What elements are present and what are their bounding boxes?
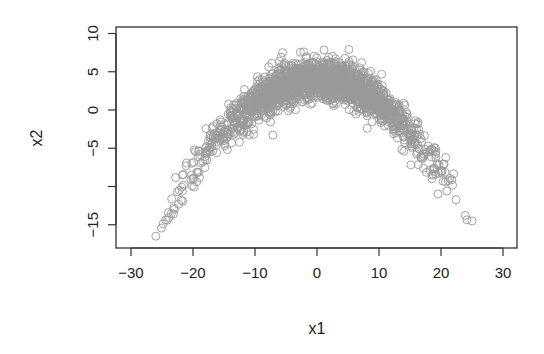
data-points [152, 46, 476, 241]
y-tick-label: 5 [84, 68, 101, 76]
data-point [180, 181, 188, 189]
data-point [468, 217, 476, 225]
y-tick-label: 0 [84, 106, 101, 114]
data-point [363, 124, 371, 132]
data-point [320, 46, 328, 54]
data-point [345, 46, 353, 54]
data-point [152, 232, 160, 240]
data-point [407, 161, 415, 169]
data-point [443, 187, 451, 195]
data-point [463, 216, 471, 224]
data-point [172, 174, 180, 182]
x-axis: −30−20−100102030 [118, 248, 511, 281]
y-axis-title: x2 [28, 129, 45, 146]
scatter-chart: −30−20−100102030 −15−50510 x1 x2 [0, 0, 544, 354]
data-point [461, 212, 469, 220]
x-tick-label: −20 [180, 264, 205, 281]
y-tick-label: 10 [84, 25, 101, 42]
y-tick-label: −5 [84, 140, 101, 157]
data-point [452, 196, 460, 204]
x-tick-label: 10 [371, 264, 388, 281]
x-tick-label: −30 [118, 264, 143, 281]
data-point [202, 125, 210, 133]
data-point [235, 138, 243, 146]
y-tick-label: −15 [84, 212, 101, 237]
x-tick-label: 30 [495, 264, 512, 281]
data-point [400, 147, 408, 155]
x-tick-label: 0 [313, 264, 321, 281]
data-point [168, 195, 176, 203]
data-point [279, 49, 287, 57]
data-point [268, 59, 276, 67]
x-tick-label: −10 [242, 264, 267, 281]
x-tick-label: 20 [433, 264, 450, 281]
y-axis: −15−50510 [84, 25, 116, 237]
x-axis-title: x1 [309, 320, 326, 337]
data-point [269, 131, 277, 139]
data-point [434, 190, 442, 198]
data-point [358, 59, 366, 67]
